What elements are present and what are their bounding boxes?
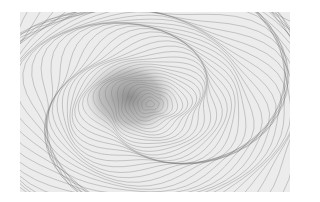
contour-artwork: [20, 12, 290, 192]
concentric-lines-drawing: [20, 12, 290, 192]
